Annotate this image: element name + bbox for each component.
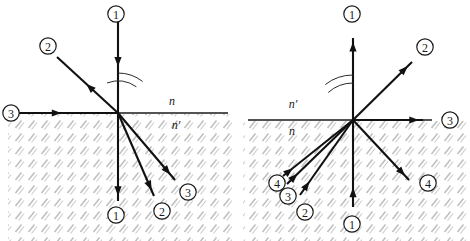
ray-label-right-3: 3 — [442, 112, 458, 128]
medium-index-label-left-below-interface: n′ — [172, 118, 181, 132]
ray-label-right-2: 2 — [417, 39, 433, 55]
ray-label-text: 2 — [302, 206, 308, 220]
ray-label-text: 3 — [285, 190, 291, 204]
ray-label-text: 4 — [274, 177, 280, 191]
ray-label-right-1: 1 — [344, 216, 360, 232]
ray-label-text: 1 — [349, 218, 355, 232]
ray-label-text: 1 — [113, 8, 119, 22]
ray-label-left-3: 3 — [3, 105, 19, 121]
ray-label-left-1: 1 — [108, 6, 124, 22]
ray-label-text: 2 — [45, 40, 51, 54]
ray-label-text: 3 — [185, 186, 191, 200]
ray-label-text: 2 — [422, 41, 428, 55]
ray-label-left-1: 1 — [108, 207, 124, 223]
ray-label-right-1: 1 — [344, 6, 360, 22]
ray-label-text: 3 — [8, 107, 14, 121]
ray-label-right-4: 4 — [269, 175, 285, 191]
medium-index-label-left-above-interface: n — [169, 94, 175, 108]
medium-index-label-right-above-interface: n′ — [289, 97, 298, 111]
ray-label-text: 2 — [159, 205, 165, 219]
ray-label-text: 1 — [113, 209, 119, 223]
ray-label-text: 1 — [349, 8, 355, 22]
ray-diagram-canvas: nn′123123n′n12344321 — [0, 0, 470, 241]
ray-label-right-2: 2 — [297, 204, 313, 220]
medium-index-label-right-below-interface: n — [289, 124, 295, 138]
ray-label-left-2: 2 — [154, 203, 170, 219]
optics-ray-figure: nn′123123n′n12344321 — [0, 0, 470, 241]
ray-label-right-3: 3 — [280, 188, 296, 204]
ray-label-text: 3 — [447, 114, 453, 128]
ray-label-right-4: 4 — [420, 175, 436, 191]
ray-label-text: 4 — [425, 177, 431, 191]
ray-label-left-3: 3 — [180, 184, 196, 200]
ray-label-left-2: 2 — [40, 38, 56, 54]
